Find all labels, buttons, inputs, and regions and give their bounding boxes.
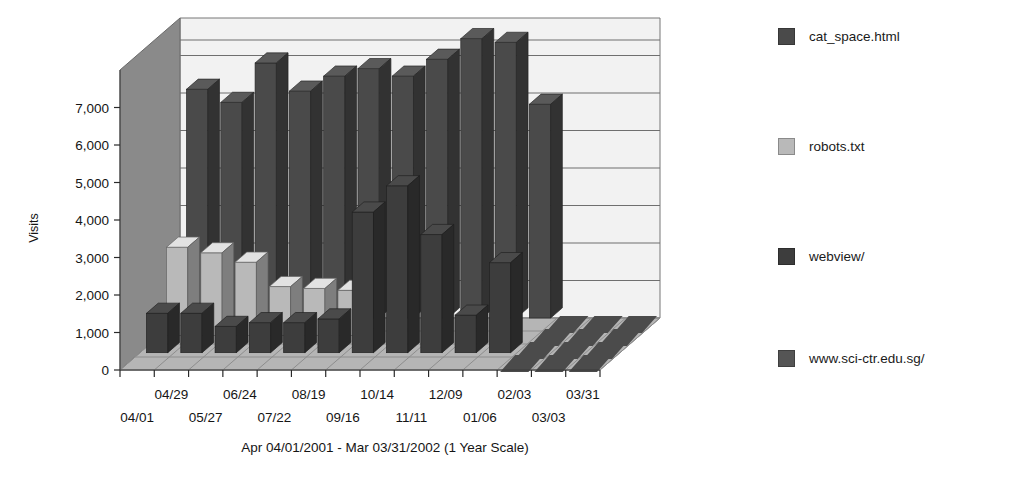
bar-front-face [489, 263, 510, 353]
legend-swatch-icon [778, 138, 795, 155]
y-axis-tick-label: 4,000 [75, 213, 109, 228]
bar-front-face [421, 235, 442, 353]
x-axis-tick-label: 08/19 [292, 387, 326, 402]
x-axis-tick-label: 04/29 [155, 387, 189, 402]
bar-front-face [249, 323, 270, 353]
x-axis-tick-label: 03/31 [566, 387, 600, 402]
bar-front-face [529, 104, 550, 318]
x-axis-tick-label: 07/22 [257, 410, 291, 425]
bar-front-face [352, 212, 373, 353]
x-axis-tick-label: 12/09 [429, 387, 463, 402]
y-axis-tick-label: 3,000 [75, 251, 109, 266]
bar [461, 28, 494, 318]
bar [318, 309, 351, 353]
chart-screenshot: Top Entry Pages 01,0002,0003,0004,0005,0… [0, 0, 1016, 493]
x-axis: 04/0104/2905/2706/2407/2208/1909/1610/14… [120, 370, 600, 455]
bar [147, 303, 180, 353]
legend-item[interactable]: www.sci-ctr.edu.sg/ [778, 350, 925, 367]
bar-front-face [215, 326, 236, 352]
x-axis-tick-label: 01/06 [463, 410, 497, 425]
x-axis-tick-label: 06/24 [223, 387, 257, 402]
legend-label: cat_space.html [809, 29, 900, 44]
bar-front-face [181, 313, 202, 352]
bar-side-face [373, 202, 385, 353]
bar-front-face [147, 313, 168, 352]
y-axis: 01,0002,0003,0004,0005,0006,0007,000Visi… [27, 70, 120, 378]
bar-side-face [511, 253, 523, 353]
bar [284, 313, 317, 353]
y-axis-tick-label: 0 [101, 363, 109, 378]
legend-label: www.sci-ctr.edu.sg/ [809, 351, 925, 366]
bar-front-face [461, 39, 482, 318]
bar-front-face [387, 186, 408, 353]
x-axis-tick-label: 09/16 [326, 410, 360, 425]
bar-front-face [455, 315, 476, 353]
x-axis-tick-label: 03/03 [532, 410, 566, 425]
y-axis-label: Visits [27, 213, 41, 243]
bar-side-face [551, 94, 563, 318]
bar [529, 94, 562, 318]
x-axis-tick-label: 10/14 [360, 387, 394, 402]
legend-label: webview/ [809, 249, 865, 264]
bar-side-face [408, 176, 420, 353]
x-axis-tick-label: 11/11 [396, 410, 428, 425]
y-axis-tick-label: 2,000 [75, 288, 109, 303]
legend-item[interactable]: robots.txt [778, 138, 865, 155]
y-axis-tick-label: 5,000 [75, 176, 109, 191]
x-axis-tick-label: 05/27 [189, 410, 223, 425]
bar-chart-3d: 01,0002,0003,0004,0005,0006,0007,000Visi… [0, 0, 778, 493]
bar [352, 202, 385, 353]
bar [387, 176, 420, 353]
y-axis-tick-label: 7,000 [75, 101, 109, 116]
bar-side-face [442, 224, 454, 352]
chart-legend: cat_space.htmlrobots.txtwebview/www.sci-… [778, 0, 1016, 493]
bar-front-face [318, 319, 339, 353]
bar [455, 305, 488, 353]
bar [215, 316, 248, 352]
bar [249, 313, 282, 353]
legend-swatch-icon [778, 350, 795, 367]
y-axis-tick-label: 1,000 [75, 326, 109, 341]
legend-item[interactable]: webview/ [778, 248, 865, 265]
legend-swatch-icon [778, 248, 795, 265]
bar-front-face [284, 323, 305, 353]
x-axis-tick-label: 04/01 [120, 410, 154, 425]
legend-item[interactable]: cat_space.html [778, 28, 900, 45]
x-axis-caption: Apr 04/01/2001 - Mar 03/31/2002 (1 Year … [241, 440, 528, 455]
bar [489, 253, 522, 353]
y-axis-tick-label: 6,000 [75, 138, 109, 153]
bar [421, 224, 454, 352]
legend-swatch-icon [778, 28, 795, 45]
bar [181, 303, 214, 353]
legend-label: robots.txt [809, 139, 865, 154]
x-axis-tick-label: 02/03 [497, 387, 531, 402]
